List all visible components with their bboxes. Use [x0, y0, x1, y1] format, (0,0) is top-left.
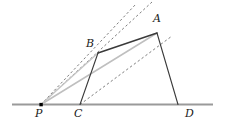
geometry-figure: A B P C D: [0, 0, 226, 127]
segment-p-a: [41, 33, 157, 105]
vertex-label-b: B: [86, 38, 94, 49]
vertex-label-c: C: [74, 108, 82, 119]
segment-b-a: [98, 33, 157, 53]
vertex-label-d: D: [185, 108, 194, 119]
vertex-label-p: P: [35, 108, 42, 119]
vertex-label-a: A: [153, 13, 161, 24]
segment-a-d: [157, 33, 178, 105]
point-p-marker: [39, 103, 42, 106]
